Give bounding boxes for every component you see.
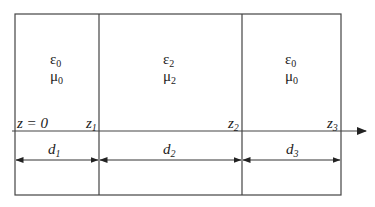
svg-text:μ0: μ0 (285, 68, 298, 86)
boundary-z2-label: z2 (227, 115, 239, 133)
region-2-mu: μ (163, 68, 171, 84)
svg-text:μ0: μ0 (50, 68, 63, 86)
region-1-mu: μ (50, 68, 58, 84)
dimension-d1-label: d1 (48, 141, 61, 159)
boundary-z1-label: z1 (85, 115, 97, 133)
region-3-properties: ε0 μ0 (285, 51, 298, 86)
region-1-properties: ε0 μ0 (50, 51, 63, 86)
region-3-mu: μ (285, 68, 293, 84)
outer-frame (15, 14, 341, 195)
svg-text:ε0: ε0 (285, 51, 296, 69)
origin-label: z = 0 (16, 115, 48, 131)
dimension-d3-label: d3 (286, 141, 299, 159)
svg-text:ε0: ε0 (50, 51, 61, 69)
boundary-z3-label: z3 (326, 115, 338, 133)
svg-text:μ2: μ2 (163, 68, 176, 86)
layered-medium-diagram: ε0 μ0 ε2 μ2 ε0 μ0 z = 0 z1 z2 z3 d1 d2 d… (0, 0, 375, 207)
region-2-properties: ε2 μ2 (163, 51, 176, 86)
dimension-d2-label: d2 (163, 141, 176, 159)
svg-text:ε2: ε2 (163, 51, 174, 69)
